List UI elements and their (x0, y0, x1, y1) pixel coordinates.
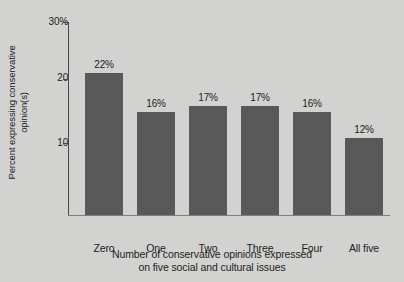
bar-group-one: 16% (132, 22, 180, 215)
bar-group-two: 17% (184, 22, 232, 215)
bar-chart: Percent expressing conservative opinion(… (0, 0, 404, 282)
bar-value-one: 16% (132, 98, 180, 109)
plot-area: 22% 16% 17% 17% 16% 12% Zero One Two Thr… (68, 22, 390, 215)
bar-two (189, 106, 227, 215)
y-tick-label-20: 20 (40, 72, 68, 83)
y-axis-title: Percent expressing conservative opinion(… (0, 0, 34, 225)
bar-zero (85, 73, 123, 215)
x-axis-line (68, 215, 390, 216)
x-axis-title: Number of conservative opinions expresse… (34, 248, 390, 274)
x-axis-title-line1: Number of conservative opinions expresse… (34, 248, 390, 261)
bar-value-two: 17% (184, 92, 232, 103)
bar-all-five (345, 138, 383, 215)
bar-group-three: 17% (236, 22, 284, 215)
bar-one (137, 112, 175, 215)
y-axis-title-line1: Percent expressing conservative (6, 45, 18, 179)
bar-value-three: 17% (236, 92, 284, 103)
x-axis-title-line2: on five social and cultural issues (34, 261, 390, 274)
bar-value-zero: 22% (80, 59, 128, 70)
bar-value-four: 16% (288, 98, 336, 109)
y-axis-ticks: 30% 20 10 (34, 0, 68, 282)
bar-value-all-five: 12% (340, 124, 388, 135)
bar-group-four: 16% (288, 22, 336, 215)
bar-three (241, 106, 279, 215)
bar-four (293, 112, 331, 215)
y-axis-title-line2: opinion(s) (17, 45, 29, 179)
bar-group-all-five: 12% (340, 22, 388, 215)
bar-group-zero: 22% (80, 22, 128, 215)
